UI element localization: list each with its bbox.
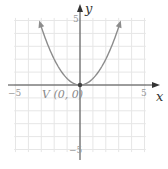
y-axis-label: y bbox=[85, 2, 92, 15]
parabola-chart bbox=[0, 0, 168, 169]
y-tick-max: 5 bbox=[73, 15, 79, 24]
y-tick-min: −5 bbox=[69, 146, 82, 155]
x-axis-arrow-icon bbox=[152, 82, 160, 88]
vertex-dot bbox=[78, 83, 82, 87]
vertex-label: V (0, 0) bbox=[42, 89, 83, 100]
x-axis-label: x bbox=[156, 90, 163, 103]
x-tick-min: −5 bbox=[8, 89, 21, 98]
x-tick-max: 5 bbox=[141, 89, 147, 98]
y-axis-arrow-icon bbox=[77, 4, 83, 12]
